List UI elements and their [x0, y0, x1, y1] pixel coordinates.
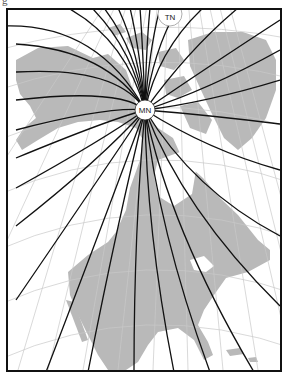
true-north-label: TN: [165, 13, 176, 22]
magnetic-north-marker: MN: [135, 100, 155, 120]
declination-map: TN MN: [8, 10, 280, 370]
caption-fragment: g: [2, 0, 8, 6]
greenland-landmass: [188, 32, 276, 150]
magnetic-north-label: MN: [139, 106, 152, 115]
baffin-island: [180, 102, 212, 134]
map-frame: TN MN: [6, 8, 282, 372]
